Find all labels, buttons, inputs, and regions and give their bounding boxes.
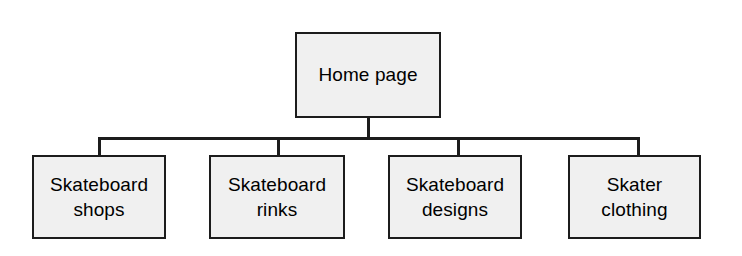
node-skateboard-shops-label: Skateboard shops <box>46 172 152 222</box>
node-skater-clothing-label: Skater clothing <box>597 172 671 222</box>
node-home-page-label: Home page <box>314 62 421 87</box>
node-skateboard-designs-label: Skateboard designs <box>402 172 508 222</box>
connector-drop-4 <box>637 137 640 155</box>
node-skateboard-designs[interactable]: Skateboard designs <box>388 155 522 239</box>
connector-horizontal-bus <box>98 137 638 140</box>
node-skateboard-rinks-label: Skateboard rinks <box>224 172 330 222</box>
node-skater-clothing[interactable]: Skater clothing <box>568 155 701 239</box>
connector-drop-1 <box>98 137 101 155</box>
connector-drop-3 <box>457 137 460 155</box>
site-map-diagram: Home page Skateboard shops Skateboard ri… <box>0 0 742 256</box>
node-skateboard-rinks[interactable]: Skateboard rinks <box>209 155 345 239</box>
connector-drop-2 <box>277 137 280 155</box>
connector-root-stem <box>367 118 370 137</box>
node-skateboard-shops[interactable]: Skateboard shops <box>32 155 166 239</box>
node-home-page[interactable]: Home page <box>295 32 441 118</box>
